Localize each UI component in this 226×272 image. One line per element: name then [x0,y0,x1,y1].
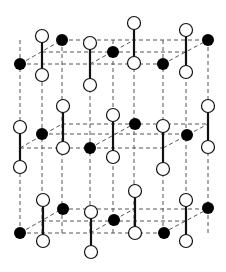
black-atom [202,202,214,214]
molecule-atom [14,121,27,134]
molecule-atom [128,57,141,70]
molecule-atom [57,100,70,113]
molecule-atom [202,141,215,154]
molecule-atom [84,79,97,92]
black-atom [107,46,119,58]
black-atom [84,142,96,154]
black-atom [108,214,120,226]
molecule-atom [85,246,98,259]
black-atom [14,227,26,239]
molecule-atom [85,206,98,219]
crystal-structure-diagram [0,0,226,272]
black-atom [181,129,193,141]
molecule-atom [36,30,49,43]
black-atom [14,58,26,70]
black-atom [158,227,170,239]
molecule-atom [157,163,170,176]
molecule-atom [14,161,27,174]
molecule-atom [180,24,193,37]
black-atom [157,58,169,70]
black-atom [129,118,141,130]
molecule-atom [57,142,70,155]
molecule-atom [36,69,49,82]
black-atom [202,34,214,46]
black-atom [56,34,68,46]
lattice-svg [0,0,226,272]
left-diagonal [20,209,62,233]
molecule-atom [37,235,50,248]
molecule-atom [129,227,142,240]
molecule-atom [84,37,97,50]
molecule-atom [180,194,193,207]
molecule-atom [37,194,50,207]
black-atom [57,203,69,215]
molecule-atom [107,109,120,122]
black-atom [36,128,48,140]
molecule-atom [157,120,170,133]
molecule-atom [202,100,215,113]
molecule-atom [107,151,120,164]
molecule-atom [128,17,141,30]
molecule-atom [180,235,193,248]
molecule-atom [180,66,193,79]
molecule-atom [129,185,142,198]
